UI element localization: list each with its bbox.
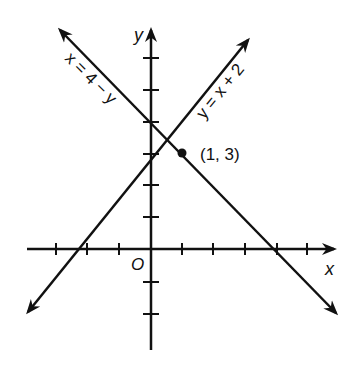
label-y-equals-x-plus-2: y = x + 2 (192, 60, 248, 123)
y-axis-label: y (132, 25, 144, 45)
coordinate-plane: y x O (1, 3) y = x + 2 x = 4 − y (0, 0, 346, 388)
intersection-point (178, 149, 187, 158)
intersection-label: (1, 3) (200, 145, 240, 164)
x-axis-label: x (324, 259, 335, 279)
line-x-equals-4-minus-y (60, 30, 336, 313)
label-x-equals-4-minus-y: x = 4 − y (61, 48, 121, 108)
origin-label: O (131, 255, 144, 274)
